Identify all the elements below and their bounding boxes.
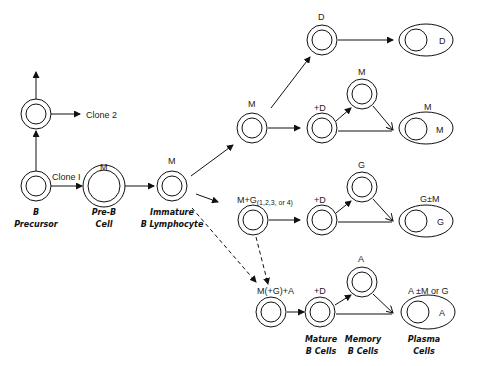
memory-caption-1: Memory [345, 335, 382, 344]
clone1-label: Clone I [52, 172, 81, 182]
immature-caption-2: B Lymphocyte [141, 220, 204, 229]
g-memory-cell [347, 172, 377, 202]
mature-caption-1: Mature [305, 335, 338, 344]
mature-caption-2: B Cells [306, 347, 337, 356]
pre-b-caption-2: Cell [96, 220, 113, 229]
a-plasma-label: A ±M or G [408, 286, 448, 296]
m-memory-label: M [358, 67, 366, 77]
mg-cell [238, 205, 268, 235]
a-mature-cell [305, 297, 335, 327]
immature-caption-1: Immature [150, 208, 195, 217]
g-plasma-cell [399, 205, 453, 237]
pre-b-label: M [100, 162, 108, 172]
m-plasma-inner: M [436, 125, 444, 135]
immature-label: M [168, 156, 176, 166]
clone2-cell [21, 99, 51, 129]
mg-cell-label: M+G(1,2,3, or 4) [237, 195, 293, 207]
d-plasma-inner: D [439, 36, 446, 46]
g-mature-label: +D [314, 195, 326, 205]
a-memory-label: A [358, 254, 364, 264]
b-cell-diagram: Clone 2 Clone I M M M D D +D M M M M+G(1… [0, 0, 477, 366]
b-precursor-caption-1: B [33, 208, 39, 217]
mga-cell-label: M(+G)+A [257, 286, 294, 296]
d-cell [307, 25, 337, 55]
plasma-caption-1: Plasma [408, 335, 441, 344]
g-memory-label: G [358, 160, 365, 170]
m-memory-cell [347, 79, 377, 109]
m-mature-label: +D [314, 103, 326, 113]
a-memory-cell [347, 267, 377, 297]
g-mature-cell [307, 205, 337, 235]
memory-caption-2: B Cells [348, 347, 379, 356]
a-plasma-cell [401, 295, 455, 329]
m-mature-cell [307, 113, 337, 143]
b-precursor-cell [21, 171, 51, 201]
a-plasma-inner: A [439, 308, 445, 318]
g-plasma-label: G±M [420, 194, 439, 204]
m-cell-label: M [248, 99, 256, 109]
b-precursor-caption-2: Precursor [14, 220, 59, 229]
pre-b-caption-1: Pre-B [92, 208, 116, 217]
d-cell-label: D [318, 12, 325, 22]
m-plasma-cell [399, 112, 453, 144]
m-plasma-label: M [424, 102, 432, 112]
g-plasma-inner: G [437, 217, 444, 227]
plasma-caption-2: Cells [413, 347, 435, 356]
immature-b-cell [157, 171, 187, 201]
a-mature-label: +D [314, 286, 326, 296]
clone2-label: Clone 2 [86, 110, 117, 120]
mga-cell [256, 297, 286, 327]
m-cell [237, 113, 267, 143]
